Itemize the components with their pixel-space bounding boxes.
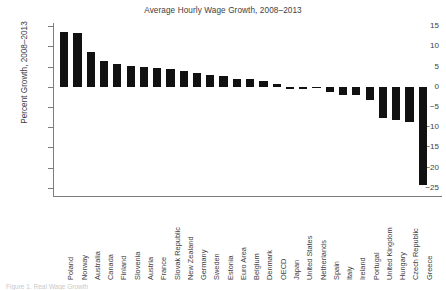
bar xyxy=(100,61,108,87)
bar xyxy=(127,66,135,87)
bar xyxy=(366,87,374,100)
bar xyxy=(60,32,68,87)
x-tick-label: Spain xyxy=(333,261,341,280)
x-tick-label: France xyxy=(160,257,168,280)
bar xyxy=(312,87,320,88)
bar xyxy=(153,68,161,87)
x-tick-label: Italy xyxy=(346,266,354,280)
x-tick-label: Euro Area xyxy=(240,247,248,280)
figure-caption-remnant: Figure 1. Real Wage Growth xyxy=(6,283,436,290)
x-tick-label: Belgium xyxy=(253,253,261,280)
bar xyxy=(233,79,241,87)
x-tick-label: Norway xyxy=(81,255,89,280)
chart-title: Average Hourly Wage Growth, 2008–2013 xyxy=(0,6,446,15)
x-tick-label: Czech Republic xyxy=(412,228,420,280)
figure-container: Average Hourly Wage Growth, 2008–2013 Pe… xyxy=(0,0,446,290)
x-tick-label: Japan xyxy=(293,260,301,280)
x-tick-label: Netherlands xyxy=(320,240,328,280)
x-tick-label: United States xyxy=(306,236,314,280)
x-tick-label: Finland xyxy=(120,256,128,280)
bar xyxy=(326,87,334,92)
x-tick-label: New Zealand xyxy=(187,236,195,280)
bar xyxy=(140,67,148,87)
x-tick-label: Austria xyxy=(147,257,155,280)
bar xyxy=(273,84,281,87)
x-tick-label: Slovenia xyxy=(134,252,142,280)
bar xyxy=(246,79,254,86)
x-tick-label: Ireland xyxy=(359,257,367,280)
x-tick-label: Greece xyxy=(426,256,434,280)
bar xyxy=(166,69,174,86)
bar xyxy=(259,81,267,87)
x-tick-label: Hungary xyxy=(399,252,407,280)
x-tick-label: Slovak Republic xyxy=(174,227,182,280)
bar xyxy=(392,87,400,120)
bar xyxy=(339,87,347,95)
bar xyxy=(219,76,227,87)
x-tick-label: United Kingdom xyxy=(386,227,394,280)
bar xyxy=(405,87,413,123)
bar xyxy=(352,87,360,95)
bar xyxy=(193,73,201,87)
bar xyxy=(87,52,95,87)
x-tick-label: Australia xyxy=(94,251,102,280)
y-axis-title: Percent Growth, 2008–2013 xyxy=(20,3,29,143)
bar xyxy=(113,64,121,86)
bar xyxy=(180,71,188,87)
x-tick-label: Estonia xyxy=(227,255,235,280)
x-tick-label: Portugal xyxy=(373,252,381,280)
x-tick-label: Canada xyxy=(107,254,115,280)
bar xyxy=(299,87,307,89)
bar xyxy=(379,87,387,119)
x-axis-line xyxy=(53,196,442,197)
x-axis-labels: PolandNorwayAustraliaCanadaFinlandSloven… xyxy=(53,198,442,284)
bar-series xyxy=(53,22,442,196)
bar xyxy=(419,87,427,185)
bar xyxy=(73,33,81,86)
bar xyxy=(286,87,294,89)
x-tick-label: Germany xyxy=(200,250,208,280)
x-tick-label: OECD xyxy=(280,259,288,280)
x-tick-label: Poland xyxy=(67,257,75,280)
x-tick-label: Sweden xyxy=(213,253,221,280)
bar xyxy=(206,75,214,87)
x-tick-label: Denmark xyxy=(266,250,274,280)
